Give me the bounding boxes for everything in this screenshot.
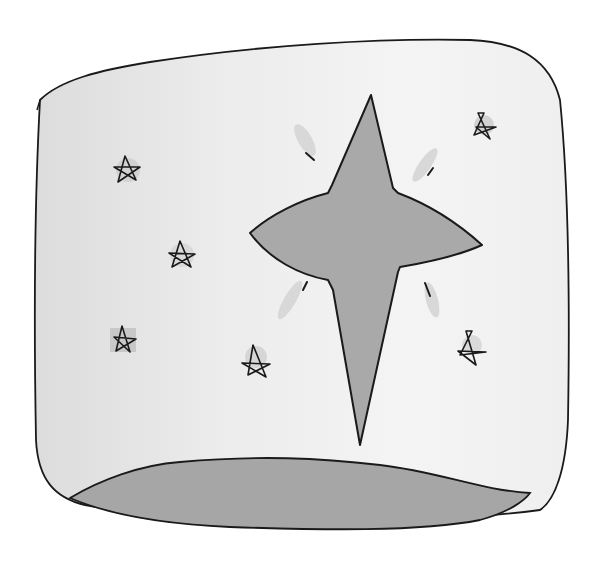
star-night-illustration xyxy=(0,0,601,566)
illustration-canvas: Hand-drawn watercolor and ink illustrati… xyxy=(0,0,601,566)
small-star xyxy=(110,326,136,352)
sky-panel xyxy=(35,40,569,523)
